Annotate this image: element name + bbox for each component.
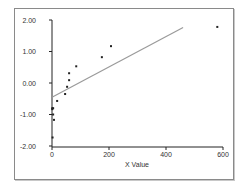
data-point [101,56,103,58]
data-point [53,119,55,121]
y-tick-label: -1.00 [20,111,36,118]
x-axis-ticks: 0200400600 [50,147,229,158]
data-point [110,45,112,47]
data-point [66,86,68,88]
data-point [56,100,58,102]
y-tick-label: 2.00 [22,17,36,24]
x-axis-title: X Value [125,161,149,168]
data-point [64,93,66,95]
fit-line [52,28,183,98]
data-point [68,72,70,74]
data-point [75,65,77,67]
scatter-chart: 2.001.000.00-1.00-2.00 0200400600 X Valu… [0,0,244,186]
x-tick-label: 0 [50,151,54,158]
data-point [68,79,70,81]
data-point [52,107,54,109]
data-point [216,26,218,28]
y-tick-label: -2.00 [20,143,36,150]
data-point [52,114,54,116]
y-tick-label: 0.00 [22,80,36,87]
data-points [51,26,218,139]
x-tick-label: 600 [217,151,229,158]
x-tick-label: 400 [160,151,172,158]
y-tick-label: 1.00 [22,48,36,55]
x-tick-label: 200 [103,151,115,158]
y-axis-ticks: 2.001.000.00-1.00-2.00 [20,17,52,150]
data-point [52,136,54,138]
